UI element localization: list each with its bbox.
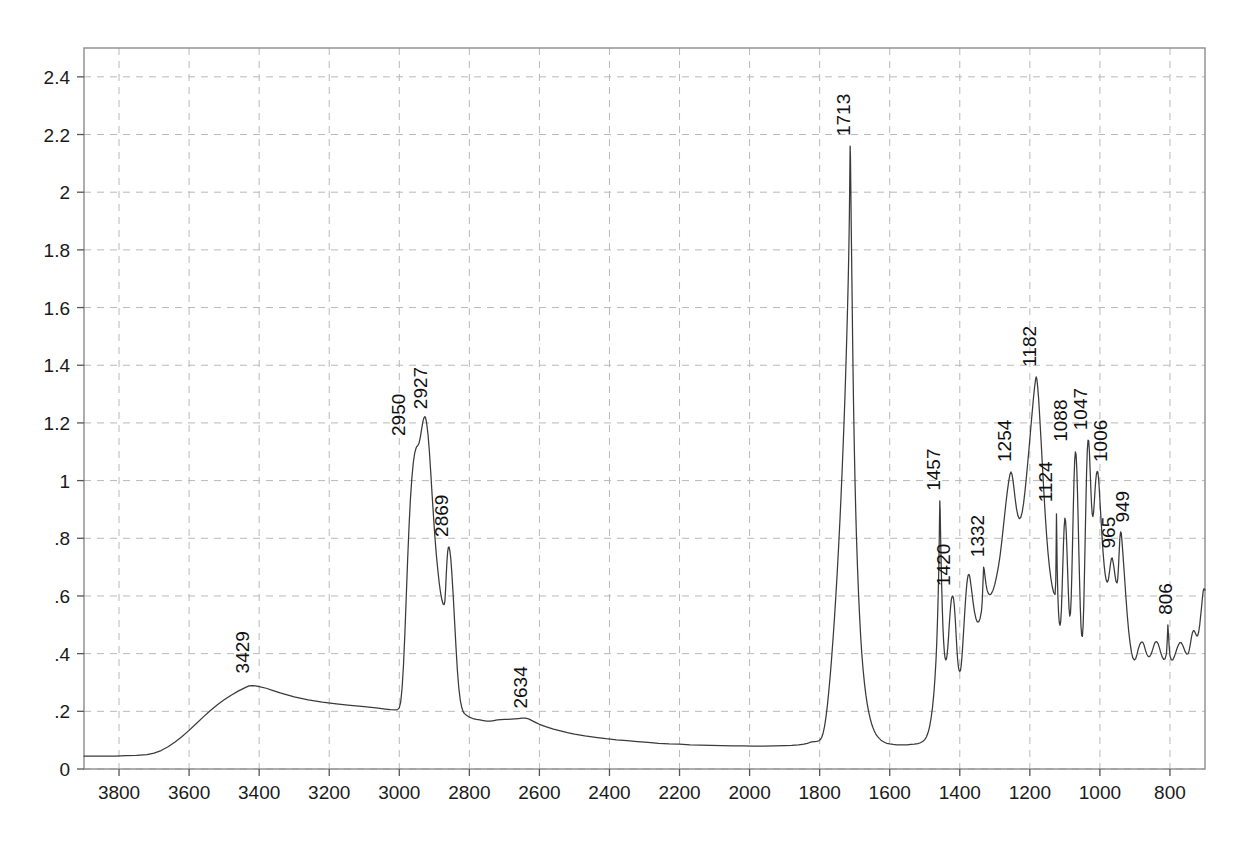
peak-label-1420: 1420	[933, 544, 954, 586]
x-tick-label-5: 2800	[448, 782, 490, 803]
x-tick-label-8: 2200	[658, 782, 700, 803]
peak-label-1124: 1124	[1035, 461, 1056, 502]
x-tick-label-4: 3000	[378, 782, 420, 803]
y-tick-label-12: 2.4	[44, 67, 71, 88]
x-tick-label-14: 1000	[1079, 782, 1121, 803]
peak-label-1457: 1457	[923, 449, 944, 491]
peak-label-1332: 1332	[967, 515, 988, 557]
x-tick-label-2: 3400	[238, 782, 280, 803]
y-tick-label-1: .2	[54, 701, 70, 722]
x-tick-label-13: 1200	[1009, 782, 1051, 803]
y-tick-label-2: .4	[54, 644, 70, 665]
peak-label-1088: 1088	[1050, 399, 1071, 441]
x-tick-label-10: 1800	[799, 782, 841, 803]
peak-label-2869: 2869	[431, 495, 452, 537]
x-tick-label-15: 800	[1154, 782, 1186, 803]
x-tick-label-12: 1400	[939, 782, 981, 803]
peak-label-1254: 1254	[994, 419, 1015, 462]
y-tick-label-9: 1.8	[44, 240, 70, 261]
y-tick-label-10: 2	[59, 182, 70, 203]
y-tick-label-8: 1.6	[44, 298, 70, 319]
y-tick-label-11: 2.2	[44, 125, 70, 146]
y-tick-label-5: 1	[59, 471, 70, 492]
x-tick-label-1: 3600	[168, 782, 210, 803]
y-tick-label-0: 0	[59, 759, 70, 780]
peak-label-2950: 2950	[388, 394, 409, 436]
ir-spectrum-chart: 3800360034003200300028002600240022002000…	[0, 0, 1254, 844]
y-tick-label-7: 1.4	[44, 355, 71, 376]
peak-label-949: 949	[1112, 491, 1133, 523]
x-tick-label-6: 2600	[518, 782, 560, 803]
y-tick-label-4: .8	[54, 528, 70, 549]
peak-label-1006: 1006	[1090, 420, 1111, 462]
peak-label-2634: 2634	[511, 666, 532, 709]
x-tick-label-7: 2400	[588, 782, 630, 803]
peak-label-806: 806	[1155, 583, 1176, 615]
peak-label-1182: 1182	[1019, 326, 1040, 367]
peak-label-1047: 1047	[1070, 388, 1091, 430]
x-tick-label-11: 1600	[869, 782, 911, 803]
x-tick-label-9: 2000	[728, 782, 770, 803]
y-tick-label-3: .6	[54, 586, 70, 607]
peak-label-2927: 2927	[410, 367, 431, 409]
x-tick-label-3: 3200	[308, 782, 350, 803]
y-tick-label-6: 1.2	[44, 413, 70, 434]
peak-label-3429: 3429	[232, 631, 253, 673]
x-tick-label-0: 3800	[98, 782, 140, 803]
peak-label-1713: 1713	[833, 94, 854, 136]
spectrum-plot-svg: 3800360034003200300028002600240022002000…	[0, 0, 1254, 844]
